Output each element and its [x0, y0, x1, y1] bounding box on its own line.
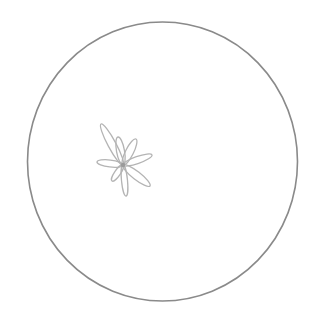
- flower-center: [121, 163, 125, 167]
- sketch-canvas: [0, 0, 321, 325]
- background: [0, 0, 321, 325]
